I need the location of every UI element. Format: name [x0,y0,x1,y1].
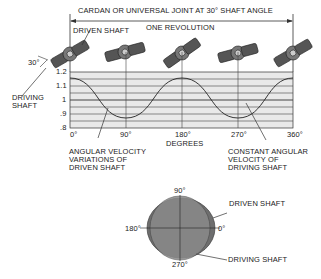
y-tick-0-9: .9 [60,110,66,118]
diagram-graphics [0,0,321,279]
arrow-left-icon [70,19,76,23]
x-tick-360: 360° [287,131,303,139]
ellipse-0-label: 0° [218,225,225,233]
y-tick-1-2: 1.2 [56,68,67,76]
driving-label-2: SHAFT [12,102,37,110]
angle-label: 30° [28,59,40,67]
x-tick-180: 180° [175,131,191,139]
one-revolution-label: ONE REVOLUTION [146,24,215,32]
ellipse-driving-shaft-label: DRIVING SHAFT [228,256,287,264]
ellipse-270-label: 270° [172,261,188,269]
y-tick-1-1: 1.1 [56,82,67,90]
constant-label-3: DRIVING SHAFT [228,164,287,172]
ellipse-180-label: 180° [125,225,141,233]
x-axis-label: DEGREES [166,140,203,148]
angular-velocity-label-3: DRIVEN SHAFT [69,164,125,172]
ellipse-driven-shaft-label: DRIVEN SHAFT [229,200,285,208]
diagram-title: CARDAN OR UNIVERSAL JOINT AT 30° SHAFT A… [78,7,273,15]
driving-shaft-pointer [22,68,46,96]
driving-ellipse-pointer [196,254,227,260]
x-tick-0: 0° [70,131,77,139]
x-tick-90: 90° [120,131,132,139]
ellipse-90-label: 90° [174,187,186,195]
universal-joint-icons [49,36,314,70]
y-tick-1: 1 [62,96,66,104]
driven-shaft-label: DRIVEN SHAFT [73,27,129,35]
y-tick-0-8: .8 [60,124,66,132]
x-tick-270: 270° [231,131,247,139]
arrow-right-icon [287,19,293,23]
driven-ellipse-pointer [213,213,227,218]
